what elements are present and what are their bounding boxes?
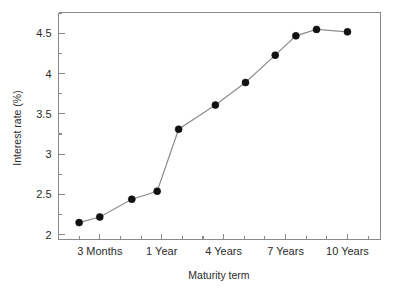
y-axis-title: Interest rate (%) xyxy=(11,90,23,165)
chart-figure: 22.533.544.5 3 Months1 Year4 Years7 Year… xyxy=(0,0,401,293)
x-tick-label: 1 Year xyxy=(146,245,178,257)
line-chart-canvas: 22.533.544.5 3 Months1 Year4 Years7 Year… xyxy=(0,0,401,293)
data-point-marker xyxy=(313,26,320,33)
data-point-marker xyxy=(154,188,161,195)
data-point-marker xyxy=(96,213,103,220)
x-axis-tick-labels: 3 Months1 Year4 Years7 Years10 Years xyxy=(77,245,369,257)
data-point-marker xyxy=(272,52,279,59)
y-tick-label: 4 xyxy=(45,68,51,80)
x-axis-title: Maturity term xyxy=(188,269,250,281)
y-tick-label: 3 xyxy=(45,148,51,160)
x-tick-label: 4 Years xyxy=(205,245,242,257)
y-tick-label: 3.5 xyxy=(36,108,51,120)
x-tick-label: 7 Years xyxy=(267,245,304,257)
data-point-marker xyxy=(292,32,299,39)
y-tick-label: 4.5 xyxy=(36,27,51,39)
data-point-marker xyxy=(344,28,351,35)
data-point-marker xyxy=(76,219,83,226)
data-point-marker xyxy=(175,126,182,133)
data-point-marker xyxy=(212,102,219,109)
data-point-marker xyxy=(128,196,135,203)
data-point-marker xyxy=(242,79,249,86)
y-tick-label: 2.5 xyxy=(36,188,51,200)
y-tick-label: 2 xyxy=(45,229,51,241)
x-tick-label: 10 Years xyxy=(326,245,369,257)
x-tick-label: 3 Months xyxy=(77,245,123,257)
